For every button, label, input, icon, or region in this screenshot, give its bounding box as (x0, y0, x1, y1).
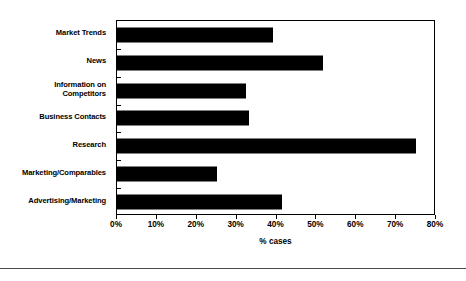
category-tick (117, 160, 121, 161)
value-axis-tick-label: 20% (188, 220, 204, 229)
value-axis-tick-label: 30% (227, 220, 243, 229)
bar-row (117, 188, 434, 216)
value-axis-title: % cases (116, 237, 435, 246)
value-axis-tick (315, 215, 316, 219)
category-tick (117, 188, 121, 189)
value-axis-tick (116, 215, 117, 219)
value-axis-tick-label: 10% (148, 220, 164, 229)
page-divider-rule (0, 268, 466, 269)
category-tick (117, 77, 121, 78)
category-tick (117, 49, 121, 50)
bar-row (117, 49, 434, 77)
value-axis-tick (236, 215, 237, 219)
value-axis-tick-label: 50% (307, 220, 323, 229)
value-axis-tick (196, 215, 197, 219)
value-axis-tick-label: 40% (267, 220, 283, 229)
bar-marketing-comparables (117, 167, 217, 182)
category-tick (117, 132, 121, 133)
category-label-research: Research (0, 131, 110, 159)
plot-area (116, 20, 435, 215)
bar-row (117, 21, 434, 49)
bar-advertising-marketing (117, 194, 282, 209)
category-label-news: News (0, 48, 110, 76)
value-axis-tick (276, 215, 277, 219)
bar-information-on-competitors (117, 83, 246, 98)
bar-chart-figure: Market Trends News Information on Compet… (0, 0, 466, 281)
category-axis-labels: Market Trends News Information on Compet… (0, 20, 110, 215)
bar-row (117, 160, 434, 188)
value-axis-tick-label: 60% (347, 220, 363, 229)
value-axis-tick-label: 70% (387, 220, 403, 229)
value-axis-tick (395, 215, 396, 219)
bar-rows (117, 21, 434, 214)
bar-business-contacts (117, 111, 249, 126)
value-axis-tick-label: 80% (427, 220, 443, 229)
bar-market-trends (117, 27, 273, 42)
category-tick (117, 105, 121, 106)
bar-row (117, 77, 434, 105)
bar-row (117, 105, 434, 133)
bar-research (117, 139, 416, 154)
value-axis-tick-labels: 0%10%20%30%40%50%60%70%80% (116, 220, 435, 234)
bar-news (117, 55, 323, 70)
bar-row (117, 132, 434, 160)
value-axis-tick (355, 215, 356, 219)
category-label-advertising-marketing: Advertising/Marketing (0, 187, 110, 215)
category-label-marketing-comparables: Marketing/Comparables (0, 159, 110, 187)
category-label-business-contacts: Business Contacts (0, 104, 110, 132)
category-label-information-on-competitors: Information on Competitors (0, 76, 110, 104)
value-axis-tick (156, 215, 157, 219)
category-label-market-trends: Market Trends (0, 20, 110, 48)
value-axis-tick (435, 215, 436, 219)
value-axis-tick-label: 0% (110, 220, 122, 229)
